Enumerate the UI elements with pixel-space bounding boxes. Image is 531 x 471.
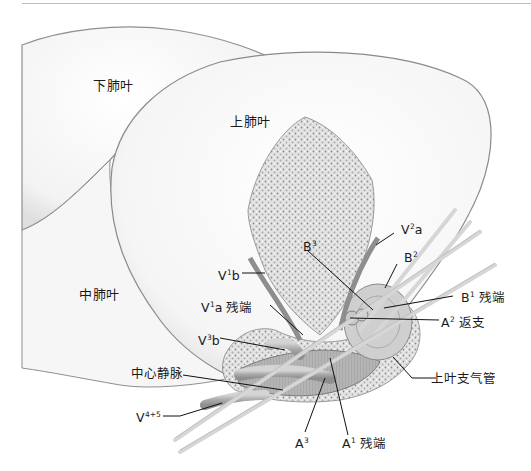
label-a2-recurrent: A2 返支 [441, 313, 485, 330]
label-b1-stump: B1 残端 [461, 288, 505, 305]
lower-lobe-label: 下肺叶 [93, 79, 134, 93]
label-a3: A3 [295, 434, 309, 451]
label-v3b: V3b [198, 331, 220, 348]
label-central-vein: 中心静脉 [131, 367, 183, 381]
lung-anatomy-illustration [0, 0, 531, 471]
label-v1a-stump: V1a 残端 [201, 298, 252, 315]
label-b2: B2 [404, 248, 418, 265]
label-v1b: V1b [218, 266, 240, 283]
label-b3: B3 [303, 237, 317, 254]
label-v45: V4+5 [136, 408, 161, 425]
label-a1-stump: A1 残端 [342, 434, 386, 451]
label-upper-lobe-bronchus: 上叶支气管 [431, 372, 496, 386]
upper-lobe-label: 上肺叶 [230, 115, 271, 129]
middle-lobe-label: 中肺叶 [79, 288, 120, 302]
label-v2a: V2a [401, 220, 423, 237]
